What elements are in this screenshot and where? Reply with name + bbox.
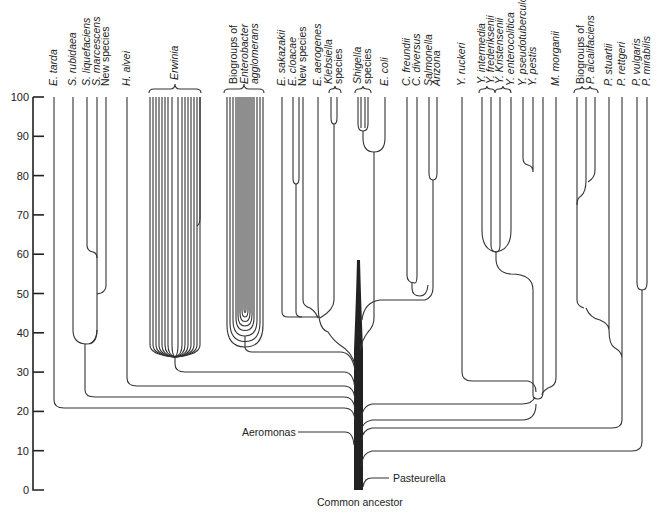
y-tick-label: 40 — [17, 327, 29, 339]
leaf-label-m-morganii: M. morganii — [549, 30, 561, 86]
shigella-bracket — [355, 86, 371, 93]
leaf-label-c-diversus: C. diversus — [410, 33, 422, 86]
y-tick-label: 20 — [17, 405, 29, 417]
branch-providencia — [362, 358, 622, 440]
pasteurella-label: Pasteurella — [393, 472, 446, 484]
leaf-label-y-enterocolitica: Y. enterocolitica — [504, 12, 516, 86]
leaf-label-new-species-2: New species — [296, 26, 308, 86]
leaf-label-agglomerans: agglomerans — [248, 23, 260, 84]
leaf-label-p-alcalifaciens: P. alcalifaciens — [584, 15, 596, 84]
agglomerans-bracket — [224, 84, 264, 93]
y-tick-label: 80 — [17, 170, 29, 182]
leaf-label-h-alvei: H. alvei — [120, 50, 132, 86]
phylogenetic-tree-figure: 0102030405060708090100 E. tardaS. rubida… — [0, 0, 662, 513]
leaf-label-y-pestis: Y. pestis — [526, 46, 538, 86]
leaf-label-erwinia: Erwinia — [168, 45, 180, 80]
branch-serratia — [85, 344, 355, 410]
leaf-label-p-rettgeri: P. rettgeri — [615, 41, 627, 86]
root-label: Common ancestor — [317, 496, 403, 508]
leaf-label-p-stuartii: P. stuartii — [602, 43, 614, 86]
y-tick-label: 60 — [17, 248, 29, 260]
erwinia-cluster — [150, 97, 200, 357]
branch-yersinia — [361, 397, 535, 420]
y-tick-label: 90 — [17, 130, 29, 142]
klebsiella-bracket — [329, 86, 341, 93]
leaf-label-p-mirabilis: P. mirabilis — [640, 35, 652, 86]
y-tick-label: 10 — [17, 445, 29, 457]
branch-pasteurella — [363, 478, 389, 487]
leaf-label-e-coli: E. coli — [378, 57, 390, 86]
tree-branches — [54, 97, 647, 490]
leaf-label-e-tarda: E. tarda — [47, 49, 59, 86]
leaf-label-shigella: species — [361, 48, 373, 84]
leaf-label-s-rubidaea: S. rubidaea — [66, 32, 78, 86]
agglomerans-cluster — [227, 97, 263, 348]
y-tick-label: 50 — [17, 288, 29, 300]
y-tick-label: 70 — [17, 209, 29, 221]
aeromonas-label: Aeromonas — [242, 426, 296, 438]
branch-proteus — [362, 290, 642, 465]
y-tick-label: 100 — [11, 91, 29, 103]
yersinia-bracket — [479, 86, 511, 93]
erwinia-bracket — [149, 84, 201, 93]
leaf-label-y-ruckeri: Y. ruckeri — [455, 42, 467, 86]
trunk — [354, 260, 363, 490]
y-axis: 0102030405060708090100 — [11, 91, 44, 496]
y-tick-label: 30 — [17, 366, 29, 378]
alcalifaciens-bracket — [574, 86, 598, 93]
y-tick-label: 0 — [23, 484, 29, 496]
leaf-label-klebsiella: species — [332, 48, 344, 84]
leaf-label-arizona: Arizona — [430, 50, 442, 87]
leaf-label-new-species-1: New species — [99, 26, 111, 86]
branch-aeromonas — [298, 432, 354, 445]
leaf-labels: E. tardaS. rubidaeaS. liquefaciensS. mar… — [47, 0, 652, 87]
